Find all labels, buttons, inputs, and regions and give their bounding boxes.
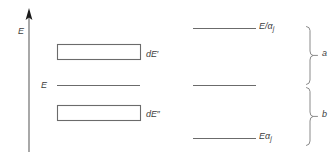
upper-band-rect (58, 45, 141, 60)
upper-right-level-label: E/αj (259, 22, 274, 32)
upper-right-level-label-subscript: j (273, 25, 275, 32)
energy-axis (26, 8, 33, 152)
lower-band-label: dE″ (146, 110, 160, 119)
brace-a-shape (307, 27, 318, 85)
upper-band-label: dE′ (146, 50, 158, 59)
lower-band-label-prime: ″ (157, 109, 160, 119)
diagram-canvas (0, 0, 336, 161)
lower-right-level-label-base: Eα (259, 131, 270, 141)
lower-right-level-label-subscript: j (270, 135, 272, 142)
upper-band-label-base: dE (146, 49, 157, 59)
axis-label-energy: E (18, 27, 24, 36)
upper-right-level-label-base: E/α (259, 21, 273, 31)
lower-band-label-base: dE (146, 109, 157, 119)
center-level-label: E (41, 81, 47, 90)
energy-level-diagram: E E dE′ dE″ E/αj Eαj a b (0, 0, 336, 161)
brace-a-label: a (322, 49, 327, 58)
upper-band-label-prime: ′ (157, 49, 158, 59)
lower-band-rect (58, 106, 141, 121)
lower-right-level-label: Eαj (259, 132, 272, 142)
brace-b-label: b (322, 110, 327, 119)
brace-b-shape (307, 88, 318, 146)
